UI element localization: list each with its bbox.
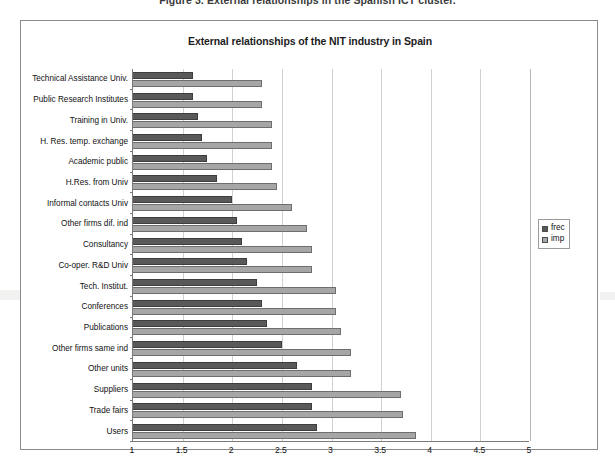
bar-row: Trade fairs [133, 401, 529, 422]
bar-frec [133, 300, 262, 307]
bar-row: Users [133, 421, 529, 442]
x-tick-label: 2.5 [275, 445, 287, 455]
bar-frec [133, 175, 217, 182]
bar-imp [133, 370, 351, 377]
bar-frec [133, 134, 202, 141]
bar-imp [133, 121, 272, 128]
bar-imp [133, 225, 307, 232]
category-label: H. Res. temp. exchange [40, 137, 133, 145]
bar-frec [133, 362, 297, 369]
bar-row: Academic public [133, 152, 529, 173]
bar-imp [133, 411, 403, 418]
bar-row: Other units [133, 359, 529, 380]
bar-row: H.Res. from Univ [133, 173, 529, 194]
category-label: Informal contacts Univ [47, 200, 133, 208]
legend-swatch-icon [542, 226, 548, 232]
bar-frec [133, 279, 257, 286]
bar-imp [133, 391, 401, 398]
x-tick-label: 4.5 [473, 445, 485, 455]
bar-imp [133, 204, 292, 211]
category-label: Other firms same ind [52, 345, 133, 353]
bar-frec [133, 320, 267, 327]
bar-row: H. Res. temp. exchange [133, 131, 529, 152]
bar-row: Conferences [133, 297, 529, 318]
x-tick-label: 1 [130, 445, 135, 455]
bar-frec [133, 72, 193, 79]
legend-item-frec[interactable]: frec [542, 223, 565, 234]
chart-frame: External relationships of the NIT indust… [20, 20, 598, 450]
bar-frec [133, 258, 247, 265]
bar-row: Publications [133, 318, 529, 339]
bar-row: Training in Univ. [133, 110, 529, 131]
bar-imp [133, 308, 336, 315]
screenshot-root: Figure 3. External relationships in the … [0, 0, 615, 471]
bar-row: Technical Assistance Univ. [133, 69, 529, 90]
bar-frec [133, 341, 282, 348]
plot-area: Technical Assistance Univ.Public Researc… [132, 69, 529, 442]
bar-row: Other firms dif. ind [133, 214, 529, 235]
bar-row: Co-oper. R&D Univ [133, 255, 529, 276]
bar-imp [133, 246, 312, 253]
gridline [530, 69, 531, 441]
category-label: Training in Univ. [70, 117, 133, 125]
bar-imp [133, 80, 262, 87]
bar-frec [133, 113, 198, 120]
bar-frec [133, 238, 242, 245]
bar-imp [133, 101, 262, 108]
axis-tick [130, 441, 133, 442]
category-label: Suppliers [94, 386, 133, 394]
legend-swatch-icon [542, 237, 548, 243]
bar-frec [133, 383, 312, 390]
category-label: Co-oper. R&D Univ [58, 262, 133, 270]
category-label: Users [107, 427, 133, 435]
category-label: Technical Assistance Univ. [32, 75, 133, 83]
legend-item-imp[interactable]: imp [542, 234, 565, 245]
x-tick-label: 5 [527, 445, 532, 455]
category-label: Academic public [68, 158, 133, 166]
category-label: Other units [88, 365, 133, 373]
bar-frec [133, 403, 312, 410]
bar-frec [133, 424, 317, 431]
bar-rows: Technical Assistance Univ.Public Researc… [133, 69, 529, 441]
x-tick-label: 3 [328, 445, 333, 455]
x-tick-label: 2 [229, 445, 234, 455]
category-label: Public Research Institutes [33, 96, 133, 104]
bar-row: Informal contacts Univ [133, 193, 529, 214]
chart-title: External relationships of the NIT indust… [21, 35, 599, 47]
category-label: Other firms dif. ind [61, 220, 133, 228]
category-label: Publications [84, 324, 133, 332]
legend-label: frec [551, 224, 565, 232]
bar-imp [133, 349, 351, 356]
bar-frec [133, 93, 193, 100]
bar-frec [133, 155, 207, 162]
category-label: Tech. Institut. [80, 282, 133, 290]
legend-label: imp [551, 235, 564, 243]
bar-imp [133, 266, 312, 273]
x-axis-tick-labels: 11.522.533.544.55 [132, 445, 529, 459]
category-label: Conferences [82, 303, 133, 311]
bar-imp [133, 142, 272, 149]
x-tick-label: 1.5 [176, 445, 188, 455]
bar-imp [133, 163, 272, 170]
bar-imp [133, 432, 416, 439]
bar-imp [133, 328, 341, 335]
bar-imp [133, 287, 336, 294]
category-label: H.Res. from Univ [66, 179, 133, 187]
page-artifact [600, 292, 615, 300]
category-label: Consultancy [83, 241, 133, 249]
category-label: Trade fairs [89, 407, 133, 415]
bar-row: Tech. Institut. [133, 276, 529, 297]
x-tick-label: 4 [427, 445, 432, 455]
figure-caption: Figure 3. External relationships in the … [0, 0, 615, 7]
chart-legend: frecimp [538, 219, 570, 249]
bar-row: Other firms same ind [133, 338, 529, 359]
x-tick-label: 3.5 [374, 445, 386, 455]
bar-frec [133, 196, 232, 203]
bar-imp [133, 183, 277, 190]
bar-row: Consultancy [133, 235, 529, 256]
bar-row: Public Research Institutes [133, 90, 529, 111]
bar-frec [133, 217, 237, 224]
bar-row: Suppliers [133, 380, 529, 401]
